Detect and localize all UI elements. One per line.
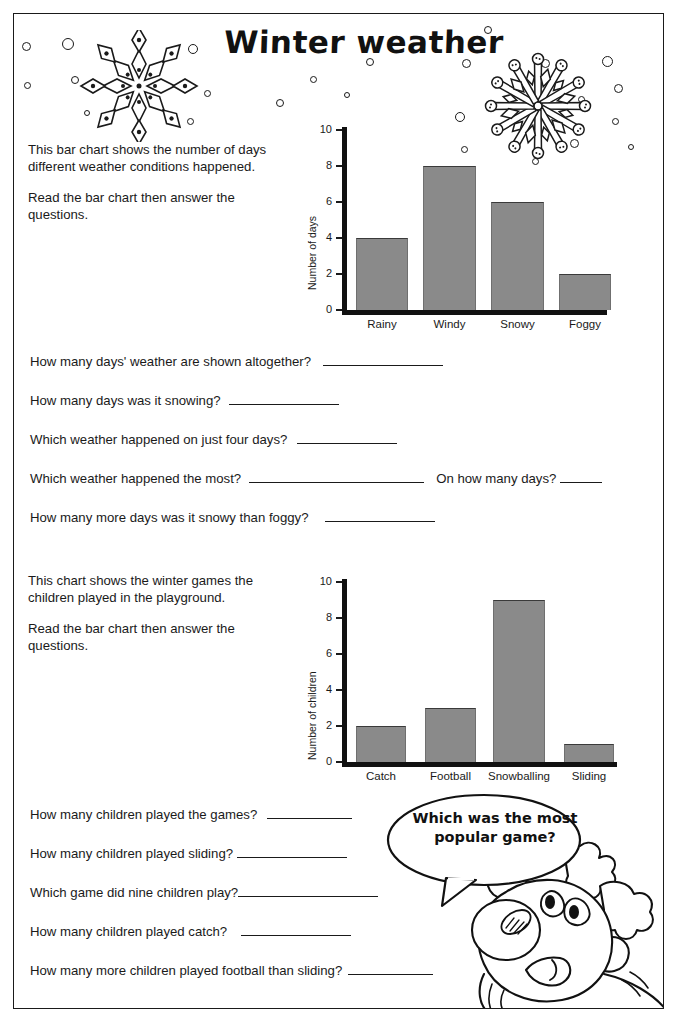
chart2-ytick-0: 0 — [316, 755, 332, 767]
section2-intro-line1: This chart shows the winter games the ch… — [28, 572, 283, 606]
section1-question-1-text: How many days' weather are shown altoget… — [30, 354, 311, 369]
section1-question-3: Which weather happened on just four days… — [30, 432, 401, 447]
section1-answer-5[interactable] — [325, 511, 435, 522]
section2-answer-4[interactable] — [241, 925, 351, 936]
section2-intro: This chart shows the winter games the ch… — [28, 572, 283, 654]
page-title: Winter weather — [218, 24, 509, 60]
section1-answer-1[interactable] — [323, 355, 443, 366]
weather-bar-chart: Number of days 10 8 6 4 2 0 Rainy Windy … — [292, 112, 622, 342]
section1-question-4-text2: On how many days? — [436, 471, 556, 486]
section2-intro-line2: Read the bar chart then answer the quest… — [28, 620, 283, 654]
worksheet-page: Winter weather This bar chart shows the … — [13, 13, 664, 1009]
chart1-ytick-4: 4 — [316, 231, 332, 243]
chart2-y-axis — [342, 579, 347, 767]
section1-answer-2[interactable] — [229, 394, 339, 405]
section1-question-3-text: Which weather happened on just four days… — [30, 432, 287, 447]
section1-question-5: How many more days was it snowy than fog… — [30, 510, 439, 525]
bar-windy — [423, 166, 476, 310]
section2-question-3: Which game did nine children play? — [30, 885, 382, 900]
snowflake-left-icon — [74, 30, 204, 142]
chart1-xlabel-snowy: Snowy — [491, 318, 544, 330]
section2-answer-1[interactable] — [267, 808, 352, 819]
chart1-y-axis — [342, 127, 347, 315]
section1-question-2: How many days was it snowing? — [30, 393, 343, 408]
section1-answer-3[interactable] — [297, 433, 397, 444]
bar-sliding — [564, 744, 614, 762]
section2-answer-2[interactable] — [237, 847, 347, 858]
section2-question-2: How many children played sliding? — [30, 846, 351, 861]
chart1-xlabel-windy: Windy — [423, 318, 476, 330]
section2-question-5: How many more children played football t… — [30, 963, 437, 978]
chart2-ytick-4: 4 — [316, 683, 332, 695]
chart2-ytick-10: 10 — [316, 575, 332, 587]
section2-question-5-text: How many more children played football t… — [30, 963, 342, 978]
games-bar-chart: Number of children 10 8 6 4 2 0 Catch Fo… — [292, 564, 632, 794]
section2-question-1-text: How many children played the games? — [30, 807, 257, 822]
section1-intro-line1: This bar chart shows the number of days … — [28, 141, 278, 175]
section1-answer-4b[interactable] — [560, 472, 602, 483]
chart1-xlabel-foggy: Foggy — [559, 318, 611, 330]
section2-question-3-text: Which game did nine children play? — [30, 885, 238, 900]
chart2-xlabel-snowballing: Snowballing — [484, 770, 554, 782]
section1-question-5-text: How many more days was it snowy than fog… — [30, 510, 309, 525]
chart2-xlabel-sliding: Sliding — [560, 770, 618, 782]
section1-question-1: How many days' weather are shown altoget… — [30, 354, 447, 369]
chart1-ytick-6: 6 — [316, 195, 332, 207]
bar-foggy — [559, 274, 611, 310]
section2-question-1: How many children played the games? — [30, 807, 356, 822]
bar-football — [425, 708, 476, 762]
chart1-x-axis — [342, 310, 607, 315]
section2-question-2-text: How many children played sliding? — [30, 846, 233, 861]
chart2-ytick-2: 2 — [316, 719, 332, 731]
chart2-ytick-8: 8 — [316, 611, 332, 623]
chart2-ytick-6: 6 — [316, 647, 332, 659]
section1-question-4-text: Which weather happened the most? — [30, 471, 241, 486]
section2-answer-5[interactable] — [348, 964, 433, 975]
bar-snowballing — [493, 600, 545, 762]
chart1-ytick-2: 2 — [316, 267, 332, 279]
speech-bubble-text: Which was the most popular game? — [412, 809, 578, 847]
chart2-xlabel-catch: Catch — [352, 770, 410, 782]
chart2-xlabel-football: Football — [421, 770, 480, 782]
bar-rainy — [356, 238, 408, 310]
section1-intro: This bar chart shows the number of days … — [28, 141, 278, 223]
chart1-ytick-10: 10 — [316, 123, 332, 135]
section1-question-2-text: How many days was it snowing? — [30, 393, 221, 408]
section1-question-4: Which weather happened the most? On how … — [30, 471, 606, 486]
section1-answer-4a[interactable] — [249, 472, 424, 483]
section1-intro-line2: Read the bar chart then answer the quest… — [28, 189, 278, 223]
bar-snowy — [491, 202, 544, 310]
section2-question-4: How many children played catch? — [30, 924, 355, 939]
bar-catch — [356, 726, 406, 762]
chart2-x-axis — [342, 762, 617, 767]
chart1-ytick-0: 0 — [316, 303, 332, 315]
chart1-xlabel-rainy: Rainy — [356, 318, 408, 330]
section2-question-4-text: How many children played catch? — [30, 924, 227, 939]
chart1-ytick-8: 8 — [316, 159, 332, 171]
section2-answer-3[interactable] — [238, 886, 378, 897]
